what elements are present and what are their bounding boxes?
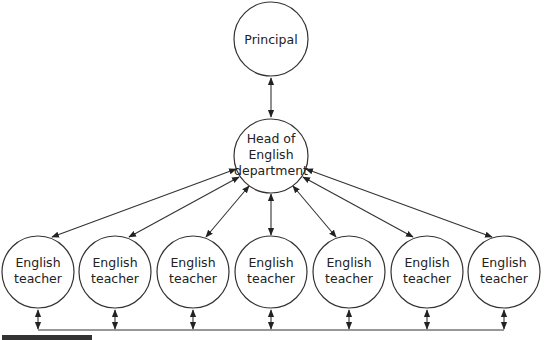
node-english-teacher-1: English teacher [2, 236, 74, 308]
node-label: teacher [403, 271, 452, 286]
node-label: teacher [91, 271, 140, 286]
node-label: teacher [247, 271, 296, 286]
node-english-teacher-4: English teacher [235, 236, 307, 308]
edge-head-teacher-5 [293, 186, 336, 237]
node-principal: Principal [234, 2, 308, 76]
node-label: English [15, 255, 60, 270]
edge-head-teacher-7 [306, 169, 492, 237]
node-label: teacher [14, 271, 63, 286]
edge-head-teacher-1 [52, 169, 236, 237]
node-english-teacher-6: English teacher [391, 236, 463, 308]
node-label: English [248, 147, 293, 162]
edge-head-teacher-2 [129, 177, 239, 237]
node-label: English [170, 255, 215, 270]
bottom-left-bar [2, 335, 92, 340]
node-label: English [326, 255, 371, 270]
node-label: English [404, 255, 449, 270]
node-label: English [92, 255, 137, 270]
edge-head-teacher-6 [303, 177, 413, 237]
node-label: teacher [169, 271, 218, 286]
node-english-teacher-3: English teacher [157, 236, 229, 308]
node-label: teacher [325, 271, 374, 286]
edge-head-teacher-3 [206, 186, 249, 237]
node-label: English [481, 255, 526, 270]
node-label: Head of [247, 131, 296, 146]
org-diagram: Principal Head of English department Eng… [0, 0, 546, 340]
node-label: department [234, 163, 308, 178]
node-english-teacher-5: English teacher [313, 236, 385, 308]
node-label: English [248, 255, 293, 270]
node-english-teacher-7: English teacher [468, 236, 540, 308]
node-label: Principal [244, 32, 297, 47]
node-head-of-english: Head of English department [234, 119, 308, 193]
node-english-teacher-2: English teacher [79, 236, 151, 308]
node-label: teacher [480, 271, 529, 286]
